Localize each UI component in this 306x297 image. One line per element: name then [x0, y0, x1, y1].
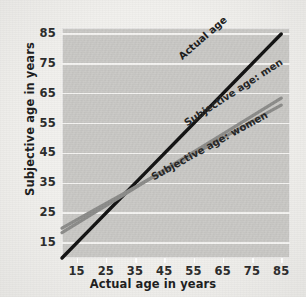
x-tick-mark-35 [135, 258, 137, 263]
x-tick-mark-85 [281, 258, 283, 263]
chart-figure: 1525354555657585 1525354555657585 Subjec… [0, 0, 306, 297]
chart-lines [62, 28, 290, 258]
series-line-actual-age [62, 34, 281, 258]
plot-area [62, 28, 290, 258]
x-tick-mark-15 [77, 258, 79, 263]
x-tick-mark-55 [194, 258, 196, 263]
x-tick-mark-25 [106, 258, 108, 263]
x-axis-title: Actual age in years [0, 277, 306, 291]
x-tick-mark-45 [164, 258, 166, 263]
y-tick-15: 15 [22, 237, 56, 249]
y-axis-title: Subjective age in years [23, 19, 37, 219]
x-tick-mark-75 [252, 258, 254, 263]
x-tick-85: 85 [264, 266, 298, 278]
x-tick-mark-65 [223, 258, 225, 263]
